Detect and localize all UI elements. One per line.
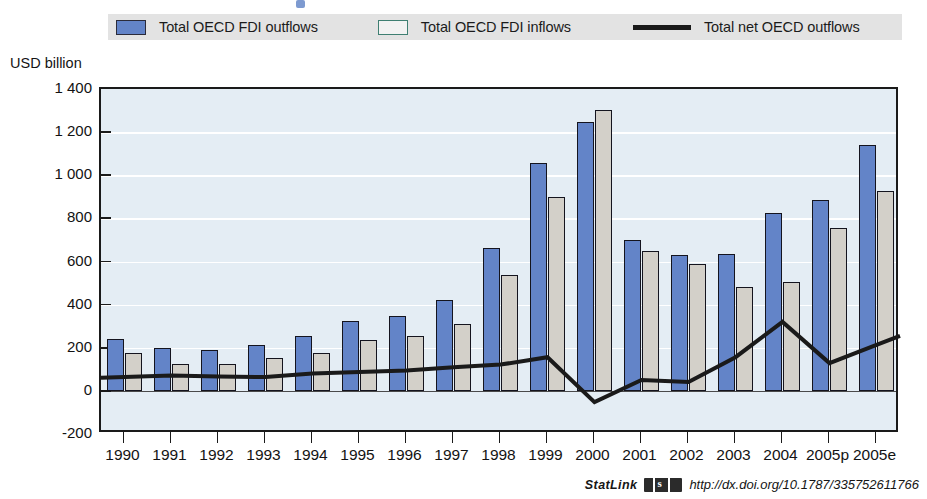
x-tick-label-1994: 1994 [293, 446, 327, 464]
x-tick-label-1999: 1999 [528, 446, 562, 464]
decorative-blue-dot [296, 0, 305, 8]
y-axis-labels: -20002004006008001 0001 2001 400 [0, 87, 927, 432]
x-tick-mark-1998 [499, 432, 501, 443]
x-tick-label-2001: 2001 [622, 446, 656, 464]
y-tick-label-600: 600 [0, 251, 92, 268]
x-tick-label-1993: 1993 [246, 446, 280, 464]
y-tick-label--200: -200 [0, 424, 92, 441]
legend-item-net-outflows: Total net OECD outflows [633, 14, 860, 40]
x-tick-mark-1990 [123, 432, 125, 443]
chart-legend: Total OECD FDI outflows Total OECD FDI i… [108, 14, 902, 40]
x-tick-label-1997: 1997 [434, 446, 468, 464]
x-tick-label-1991: 1991 [152, 446, 186, 464]
x-tick-mark-2004 [781, 432, 783, 443]
x-tick-mark-2005e [875, 432, 877, 443]
x-tick-label-1990: 1990 [105, 446, 139, 464]
y-tick-label-0: 0 [0, 380, 92, 397]
legend-label-net-outflows: Total net OECD outflows [704, 19, 860, 35]
x-tick-label-1996: 1996 [387, 446, 421, 464]
statlink-barcode-icon [644, 478, 682, 492]
legend-swatch-inflows-icon [378, 20, 408, 35]
x-tick-mark-1992 [217, 432, 219, 443]
y-axis-title: USD billion [10, 55, 82, 71]
x-tick-mark-1994 [311, 432, 313, 443]
x-tick-mark-2005p [828, 432, 830, 443]
x-tick-mark-1997 [452, 432, 454, 443]
statlink-footer: StatLink http://dx.doi.org/10.1787/33575… [585, 477, 919, 492]
x-tick-label-1995: 1995 [340, 446, 374, 464]
x-tick-mark-1991 [170, 432, 172, 443]
x-tick-mark-1993 [264, 432, 266, 443]
legend-swatch-outflows-icon [116, 20, 146, 35]
y-tick-label-800: 800 [0, 208, 92, 225]
x-tick-mark-1999 [546, 432, 548, 443]
y-tick-label-200: 200 [0, 337, 92, 354]
y-tick-label-1000: 1 000 [0, 165, 92, 182]
y-tick-label-1400: 1 400 [0, 79, 92, 96]
x-tick-mark-2000 [593, 432, 595, 443]
x-tick-mark-2001 [640, 432, 642, 443]
y-tick-label-1200: 1 200 [0, 122, 92, 139]
legend-label-outflows: Total OECD FDI outflows [159, 19, 318, 35]
y-tick-label-400: 400 [0, 294, 92, 311]
legend-item-outflows: Total OECD FDI outflows [116, 14, 318, 40]
x-tick-label-1998: 1998 [481, 446, 515, 464]
x-tick-label-1992: 1992 [199, 446, 233, 464]
x-tick-mark-2003 [734, 432, 736, 443]
x-tick-mark-2002 [687, 432, 689, 443]
x-tick-label-2002: 2002 [669, 446, 703, 464]
x-tick-label-2000: 2000 [575, 446, 609, 464]
statlink-word: StatLink [585, 478, 638, 492]
legend-item-inflows: Total OECD FDI inflows [378, 14, 571, 40]
x-tick-label-2005e: 2005e [853, 446, 896, 464]
statlink-url[interactable]: http://dx.doi.org/10.1787/335752611766 [689, 477, 919, 492]
x-tick-label-2003: 2003 [716, 446, 750, 464]
x-tick-label-2005p: 2005p [806, 446, 849, 464]
x-tick-mark-1996 [405, 432, 407, 443]
legend-label-inflows: Total OECD FDI inflows [421, 19, 571, 35]
x-axis: 1990199119921993199419951996199719981999… [99, 432, 898, 478]
x-tick-label-2004: 2004 [763, 446, 797, 464]
legend-swatch-net-line-icon [633, 25, 691, 30]
x-tick-mark-1995 [358, 432, 360, 443]
